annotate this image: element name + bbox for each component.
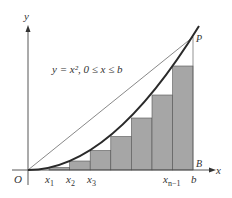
rectangle-2 [70, 161, 91, 170]
rectangle-5 [131, 118, 152, 170]
tick-label-x1: x1 [44, 173, 54, 188]
x-axis-label: x [215, 164, 221, 176]
rectangle-6 [152, 95, 173, 170]
point-p-label: P [195, 33, 202, 44]
y-axis-label: y [23, 10, 29, 22]
rectangles [49, 66, 193, 170]
rectangle-3 [90, 151, 111, 171]
x-axis-arrow-icon [209, 168, 216, 173]
diagram-canvas: y x O y = x², 0 ≤ x ≤ b P B x1 x2 x3 xn−… [0, 0, 232, 198]
rectangle-7 [173, 66, 193, 170]
tick-label-b: b [191, 173, 197, 185]
point-b-label: B [196, 158, 202, 169]
y-axis-arrow-icon [26, 25, 31, 32]
equation-label: y = x², 0 ≤ x ≤ b [51, 63, 123, 75]
tick-label-x2: x2 [65, 173, 75, 188]
tick-labels: x1 x2 x3 xn−1 b [44, 173, 197, 188]
origin-label: O [14, 173, 22, 185]
rectangle-4 [111, 137, 132, 171]
tick-label-x3: x3 [86, 173, 96, 188]
tick-label-xn-1: xn−1 [162, 173, 180, 188]
riemann-sum-diagram: y x O y = x², 0 ≤ x ≤ b P B x1 x2 x3 xn−… [0, 0, 232, 198]
